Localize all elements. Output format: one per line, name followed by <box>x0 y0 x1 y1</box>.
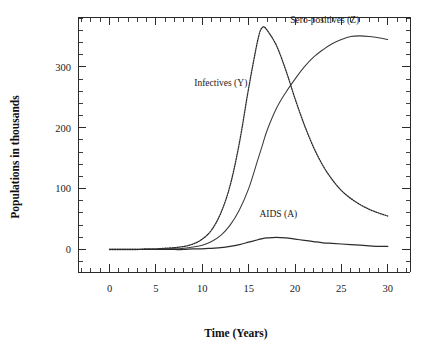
y-tick-label: 200 <box>55 123 71 134</box>
series-label-2: AIDS (A) <box>259 209 297 220</box>
x-tick-label: 20 <box>290 283 301 294</box>
series-label-0: Infectives (Y) <box>194 78 247 89</box>
chart-figure: 051015202530 0100200300 Infectives (Y)Se… <box>0 0 435 358</box>
x-tick-label: 30 <box>382 283 393 294</box>
y-tick-label: 300 <box>55 62 71 73</box>
series-label-1: Sero-positives (Z) <box>290 15 359 26</box>
y-tick-label: 0 <box>66 244 71 255</box>
y-axis-title: Populations in thousands <box>9 95 22 219</box>
y-tick-label: 100 <box>55 183 71 194</box>
x-tick-label: 5 <box>153 283 158 294</box>
x-tick-label: 10 <box>197 283 208 294</box>
chart-background <box>0 0 435 358</box>
x-tick-label: 0 <box>107 283 112 294</box>
x-tick-label: 15 <box>243 283 254 294</box>
x-axis-title: Time (Years) <box>204 327 268 340</box>
x-tick-label: 25 <box>336 283 347 294</box>
epidemic-model-line-chart: 051015202530 0100200300 Infectives (Y)Se… <box>0 0 435 358</box>
